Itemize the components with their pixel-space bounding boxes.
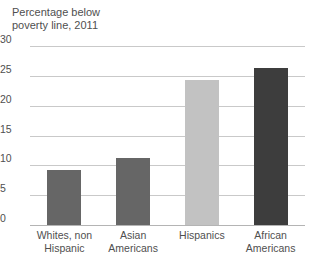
bars-layer	[30, 46, 305, 225]
bar	[254, 68, 288, 225]
bar-slot	[99, 46, 168, 225]
chart-title: Percentage below poverty line, 2011	[12, 6, 212, 32]
y-tick-label-5: 5	[0, 183, 26, 194]
bar-slot	[30, 46, 99, 225]
bar-slot	[236, 46, 305, 225]
y-tick-label-10: 10	[0, 153, 26, 164]
bar-slot	[168, 46, 237, 225]
gridline-0	[30, 225, 305, 226]
category-label: Hispanics	[168, 229, 237, 242]
y-tick-label-20: 20	[0, 94, 26, 105]
category-axis-labels: Whites, non HispanicAsian AmericansHispa…	[30, 229, 305, 259]
y-tick-label-15: 15	[0, 124, 26, 135]
y-tick-label-30: 30	[0, 34, 26, 45]
category-label: Asian Americans	[99, 229, 168, 255]
bar	[116, 158, 150, 225]
y-tick-label-0: 0	[0, 213, 26, 224]
category-label: Whites, non Hispanic	[30, 229, 99, 255]
bar	[185, 80, 219, 225]
category-label: African Americans	[236, 229, 305, 255]
y-tick-label-25: 25	[0, 64, 26, 75]
poverty-rate-bar-chart: Percentage below poverty line, 2011 0510…	[0, 0, 313, 259]
bar	[47, 170, 81, 225]
